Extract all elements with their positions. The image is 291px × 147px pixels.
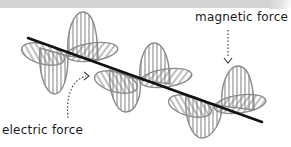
electric-pointer-arrow	[68, 72, 89, 118]
magnetic-pointer-arrow	[224, 30, 232, 63]
electric-force-label: electric force	[2, 123, 83, 137]
magnetic-force-label: magnetic force	[195, 10, 288, 24]
